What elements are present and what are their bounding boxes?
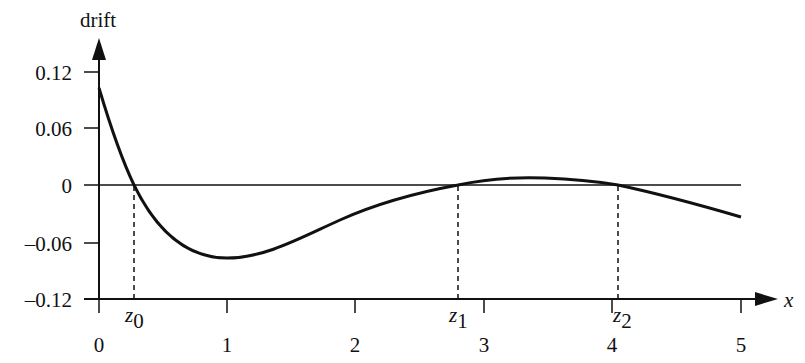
z0-label: z0 [124, 303, 144, 333]
x-tick-label: 1 [222, 333, 233, 357]
y-tick-label: 0.06 [35, 117, 72, 141]
y-axis-arrow-icon [92, 38, 106, 60]
drift-chart: drift x 0.12 0.06 0 –0.06 –0.12 0 1 2 3 … [0, 0, 805, 363]
y-tick-label: 0 [62, 174, 73, 198]
x-axis-arrow-icon [755, 292, 778, 306]
y-tick-label: 0.12 [35, 61, 72, 85]
z-markers [134, 186, 618, 299]
z1-label: z1 [448, 303, 468, 333]
x-tick-label: 3 [479, 333, 490, 357]
drift-curve [99, 88, 741, 258]
y-tick-label: –0.06 [24, 232, 72, 256]
x-ticks [99, 299, 741, 313]
x-tick-label: 4 [607, 333, 618, 357]
z2-label: z2 [612, 303, 632, 333]
x-axis-label: x [783, 288, 794, 312]
x-tick-label: 2 [350, 333, 361, 357]
y-axis-label: drift [80, 8, 116, 32]
x-tick-label: 5 [736, 333, 747, 357]
y-ticks [84, 72, 99, 243]
x-tick-label: 0 [94, 333, 105, 357]
y-tick-label: –0.12 [24, 288, 72, 312]
